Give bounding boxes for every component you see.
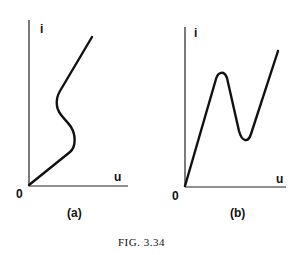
figure-canvas (0, 0, 299, 255)
panel-b-x-label: u (276, 172, 283, 186)
panel-b-caption: (b) (230, 206, 245, 220)
panel-b-y-label: i (194, 26, 197, 40)
panel-a-x-label: u (114, 170, 121, 184)
panel-b-curve (185, 51, 278, 186)
panel-a-origin: 0 (16, 187, 23, 201)
panel-a-caption: (a) (67, 206, 82, 220)
panel-b-origin: 0 (172, 189, 179, 203)
panel-b-axes (185, 27, 286, 187)
panel-a-axes (29, 20, 128, 186)
panel-a-y-label: i (40, 22, 43, 36)
panel-a-curve (29, 37, 92, 185)
figure-caption: FIG. 3.34 (118, 236, 165, 248)
